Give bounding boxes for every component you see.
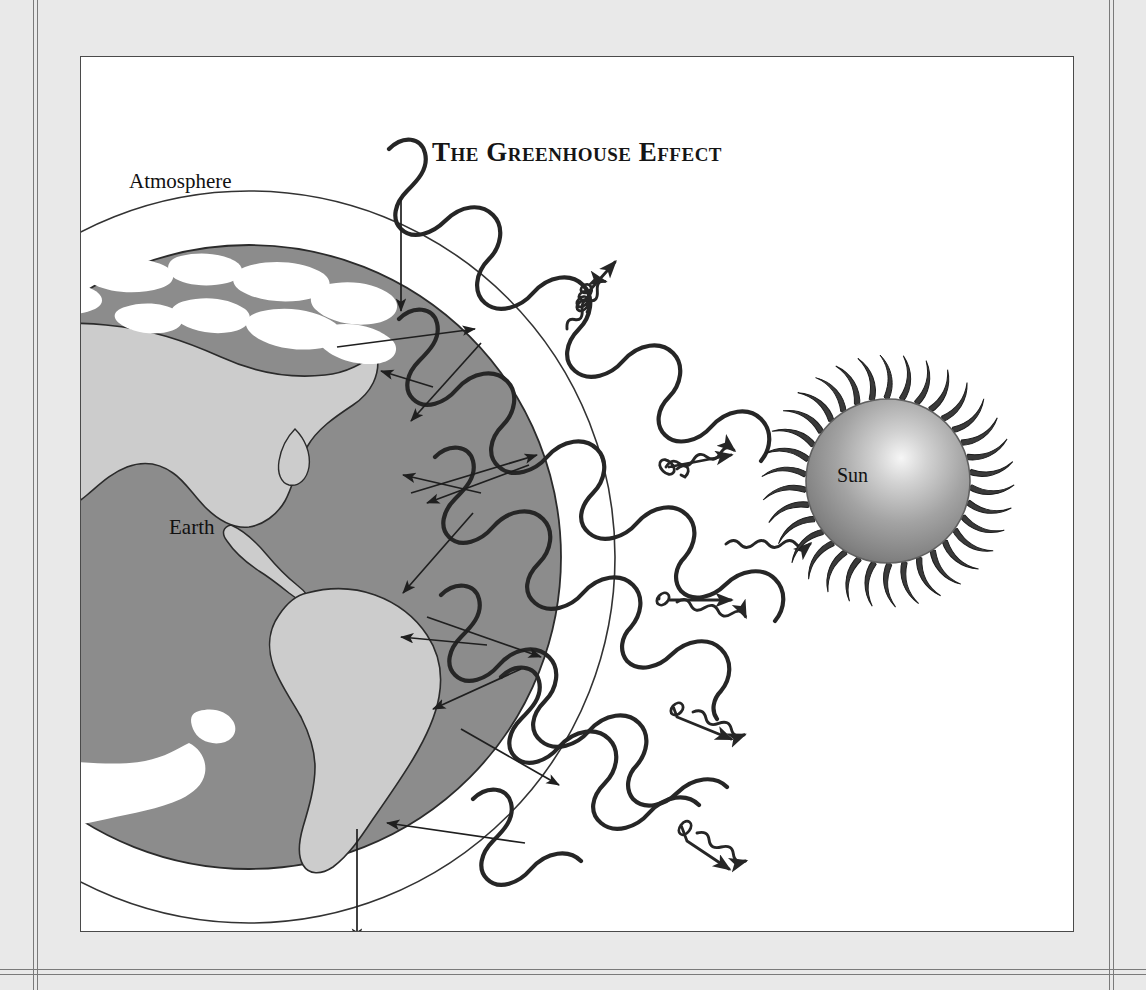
diagram-panel: The Greenhouse Effect <box>80 56 1074 932</box>
earth-label: Earth <box>169 515 214 540</box>
earth-globe <box>81 245 561 873</box>
ir-wave-b <box>665 446 735 471</box>
mat-rule-left-inner <box>37 0 38 990</box>
mat-rule-bottom-outer <box>0 969 1146 970</box>
infrared-escape-4 <box>657 593 731 605</box>
mat-rule-bottom-inner <box>0 974 1146 975</box>
mat-rule-right-inner <box>1113 0 1114 990</box>
ir-wave-f <box>695 830 747 865</box>
escaping-infrared-rays-wave <box>558 279 810 864</box>
mat-rule-left-outer <box>33 0 34 990</box>
greenhouse-effect-poster: The Greenhouse Effect <box>0 0 1146 1003</box>
sun-disc <box>806 399 970 563</box>
sun-label: Sun <box>837 464 868 487</box>
infrared-escape-6 <box>679 821 729 869</box>
mat-rule-right-outer <box>1109 0 1110 990</box>
atmosphere-label: Atmosphere <box>129 169 232 194</box>
sun <box>762 355 1014 607</box>
ir-wave-d <box>676 598 746 620</box>
